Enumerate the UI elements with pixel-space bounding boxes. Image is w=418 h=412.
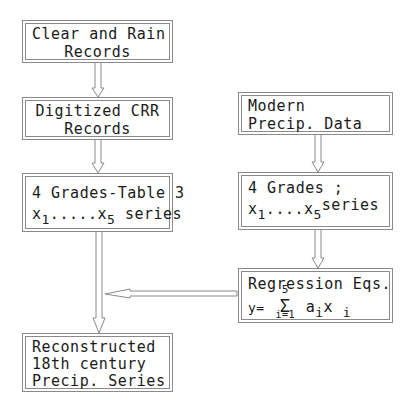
node-grades-table: 4 Grades-Table 3 x1.....x5 series xyxy=(22,173,173,232)
series-formula: x1.....x5 series xyxy=(32,204,163,225)
node-text-line: Precip. Data xyxy=(248,115,383,133)
arrow-grades-to-reconstructed xyxy=(93,232,105,333)
node-grades-modern: 4 Grades ; x1....x5series xyxy=(238,172,393,230)
arrow-regression-to-reconstructed xyxy=(105,289,237,298)
regression-equation: y= 5Σi=1 aix i xyxy=(248,294,383,318)
node-text-line: Regression Eqs. xyxy=(248,274,383,294)
arrow-digitized-to-grades xyxy=(92,140,104,173)
sigma-symbol: 5Σi=1 xyxy=(274,296,296,316)
node-clear-rain-records: Clear and Rain Records xyxy=(22,20,173,63)
node-digitized-crr-records: Digitized CRR Records xyxy=(22,97,173,140)
arrow-modern-to-grades xyxy=(312,135,324,172)
node-text-line: 18th century xyxy=(32,356,163,373)
node-regression-eqs: Regression Eqs. y= 5Σi=1 aix i xyxy=(238,268,393,323)
node-text-line: Reconstructed xyxy=(32,339,163,356)
node-text-line: Records xyxy=(32,43,163,61)
node-reconstructed-series: Reconstructed 18th century Precip. Serie… xyxy=(22,333,173,392)
node-text-line: 4 Grades-Table 3 xyxy=(32,183,163,204)
node-text-line: Clear and Rain xyxy=(32,25,163,43)
node-text-line: Precip. Series xyxy=(32,373,163,390)
series-formula: x1....x5series xyxy=(248,199,383,220)
node-text-line: Digitized CRR xyxy=(32,102,163,120)
arrow-grades-to-regression xyxy=(312,230,324,268)
node-text-line: Modern xyxy=(248,97,383,115)
arrow-clear-to-digitized xyxy=(92,63,104,97)
node-text-line: Records xyxy=(32,120,163,138)
node-modern-precip-data: Modern Precip. Data xyxy=(238,92,393,135)
